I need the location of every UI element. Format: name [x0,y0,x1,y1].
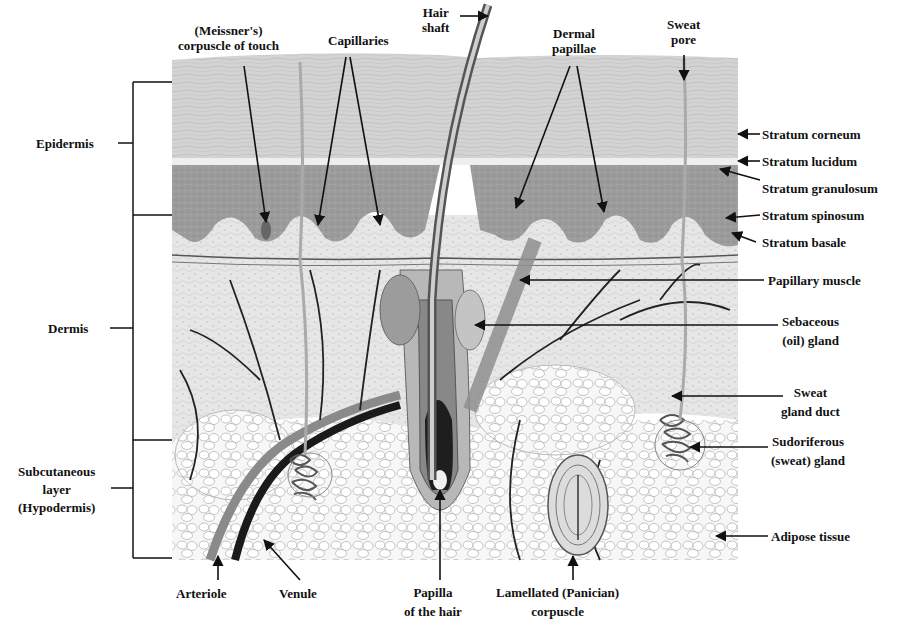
label-papillary-muscle: Papillary muscle [768,273,861,288]
label-lamellated-corpuscle: Lamellated (Panician) corpuscle [496,583,619,621]
label-sweat-gland-duct: Sweat gland duct [781,383,840,421]
label-arteriole: Arteriole [176,586,227,601]
label-papilla-of-hair: Papilla of the hair [404,583,462,621]
label-stratum-basale: Stratum basale [762,235,846,250]
label-hair-shaft: Hair shaft [422,5,449,35]
label-capillaries: Capillaries [328,33,389,48]
label-stratum-granulosum: Stratum granulosum [762,181,878,196]
label-sweat-pore: Sweat pore [667,17,700,47]
label-meissner-corpuscle: (Meissner's) corpuscle of touch [178,23,279,53]
label-sebaceous-gland: Sebaceous (oil) gland [782,312,839,350]
label-stratum-lucidum: Stratum lucidum [762,154,857,169]
label-dermis: Dermis [48,321,88,336]
skin-diagram: Epidermis Dermis Subcutaneous layer (Hyp… [0,0,923,630]
label-adipose-tissue: Adipose tissue [771,529,850,544]
label-stratum-spinosum: Stratum spinosum [762,208,864,223]
label-epidermis: Epidermis [36,136,94,151]
label-venule: Venule [279,586,317,601]
label-dermal-papillae: Dermal papillae [552,26,596,56]
label-hypodermis: Subcutaneous layer (Hypodermis) [18,463,95,517]
label-sudoriferous-gland: Sudoriferous (sweat) gland [771,432,845,470]
label-stratum-corneum: Stratum corneum [762,127,861,142]
